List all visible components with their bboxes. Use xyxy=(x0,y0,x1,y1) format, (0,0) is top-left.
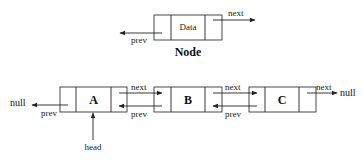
node-c: C xyxy=(249,87,316,112)
bc-next-label: next xyxy=(225,82,241,92)
node-a: A xyxy=(60,87,127,112)
node-a-label: A xyxy=(89,93,98,107)
head-label: head xyxy=(85,142,102,152)
c-next-label: next xyxy=(316,82,332,92)
ab-next-label: next xyxy=(131,82,147,92)
node-c-label: C xyxy=(278,93,287,107)
a-prev-label: prev xyxy=(41,108,57,118)
bc-prev-label: prev xyxy=(225,109,241,119)
doubly-linked-list-diagram: Data next prev Node A B C null prev next… xyxy=(0,0,362,165)
legend-node: Data next prev Node xyxy=(120,8,255,59)
null-right-label: null xyxy=(340,87,356,98)
node-b: B xyxy=(154,87,222,112)
legend-caption: Node xyxy=(175,45,202,59)
legend-next-label: next xyxy=(228,8,244,18)
node-b-label: B xyxy=(184,93,192,107)
ab-prev-label: prev xyxy=(131,109,147,119)
null-left-label: null xyxy=(10,97,26,108)
legend-prev-label: prev xyxy=(131,35,147,45)
legend-data-label: Data xyxy=(180,22,197,32)
